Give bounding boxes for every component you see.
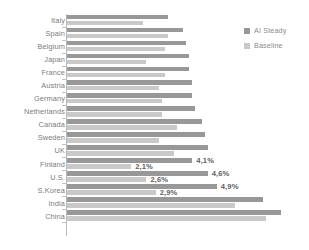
bar-ai-steady: [67, 106, 195, 111]
data-label: 4,1%: [196, 156, 214, 165]
category-label: Italy: [0, 14, 65, 27]
category-label: France: [0, 66, 65, 79]
category-label: Sweden: [0, 131, 65, 144]
category-label: Belgium: [0, 40, 65, 53]
bar-row: Belgium: [0, 40, 309, 53]
data-label: 4,6%: [212, 169, 230, 178]
bar-row: Sweden: [0, 131, 309, 144]
bar-rows: ItalySpainBelgiumJapanFranceAustriaGerma…: [0, 14, 309, 223]
bar-ai-steady: [67, 119, 202, 124]
data-label: 2,1%: [135, 162, 153, 171]
bar-row: U.S.4,6%2,6%: [0, 171, 309, 184]
bar-row: Canada: [0, 118, 309, 131]
bar-ai-steady: [67, 93, 192, 98]
bar-baseline: [67, 177, 146, 182]
bar-baseline: [67, 190, 156, 195]
bar-ai-steady: [67, 184, 217, 189]
bar-baseline: [67, 60, 146, 65]
bar-row: India: [0, 197, 309, 210]
bar-baseline: [67, 73, 165, 78]
axis-tick: [62, 222, 66, 223]
bar-row: Austria: [0, 79, 309, 92]
bar-baseline: [67, 99, 162, 104]
bar-row: France: [0, 66, 309, 79]
bar-row: Netherlands: [0, 105, 309, 118]
category-label: S.Korea: [0, 184, 65, 197]
bar-baseline: [67, 203, 235, 208]
bar-baseline: [67, 21, 143, 26]
bar-row: Italy: [0, 14, 309, 27]
bar-baseline: [67, 47, 165, 52]
category-label: Germany: [0, 92, 65, 105]
data-label: 4,9%: [221, 182, 239, 191]
bar-row: China: [0, 210, 309, 223]
category-label: China: [0, 210, 65, 223]
bar-ai-steady: [67, 132, 205, 137]
bar-row: Finland4,1%2,1%: [0, 158, 309, 171]
bar-ai-steady: [67, 28, 183, 33]
bar-ai-steady: [67, 54, 189, 59]
bar-baseline: [67, 34, 168, 39]
data-label: 2,6%: [150, 175, 168, 184]
bar-ai-steady: [67, 41, 186, 46]
bar-baseline: [67, 151, 174, 156]
category-label: Canada: [0, 118, 65, 131]
category-label: UK: [0, 144, 65, 157]
data-label: 2,9%: [160, 188, 178, 197]
bar-ai-steady: [67, 80, 192, 85]
category-label: Finland: [0, 158, 65, 171]
category-label: Netherlands: [0, 105, 65, 118]
bar-row: Germany: [0, 92, 309, 105]
category-label: Japan: [0, 53, 65, 66]
bar-baseline: [67, 216, 266, 221]
category-label: India: [0, 197, 65, 210]
bar-row: UK: [0, 144, 309, 157]
bar-ai-steady: [67, 158, 192, 163]
bar-chart: AI SteadyBaseline ItalySpainBelgiumJapan…: [0, 0, 309, 250]
bar-baseline: [67, 138, 159, 143]
bar-ai-steady: [67, 15, 168, 20]
bar-ai-steady: [67, 197, 263, 202]
plot-area: ItalySpainBelgiumJapanFranceAustriaGerma…: [0, 14, 309, 238]
bar-row: S.Korea4,9%2,9%: [0, 184, 309, 197]
category-label: U.S.: [0, 171, 65, 184]
bar-ai-steady: [67, 171, 208, 176]
bar-row: Japan: [0, 53, 309, 66]
bar-baseline: [67, 112, 162, 117]
bar-baseline: [67, 164, 131, 169]
bar-ai-steady: [67, 210, 281, 215]
bar-ai-steady: [67, 67, 189, 72]
category-label: Spain: [0, 27, 65, 40]
bar-ai-steady: [67, 145, 208, 150]
bar-baseline: [67, 86, 159, 91]
bar-row: Spain: [0, 27, 309, 40]
category-label: Austria: [0, 79, 65, 92]
bar-baseline: [67, 125, 177, 130]
